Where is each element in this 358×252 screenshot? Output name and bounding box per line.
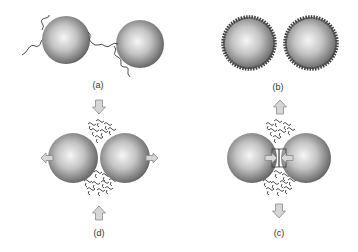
sphere <box>100 133 150 183</box>
arrow-up-icon <box>93 206 106 220</box>
panel-d: (d) <box>41 120 158 239</box>
panel-a: (a) <box>22 15 164 114</box>
arrow-down-icon <box>273 204 286 218</box>
polymer-chain <box>88 32 118 47</box>
panel-label-a: (a) <box>93 80 104 90</box>
panel-b: (b) <box>223 17 337 114</box>
sphere <box>116 20 164 68</box>
panel-c: (c) <box>227 120 331 239</box>
colloid-interaction-diagram: (a) (b) (d) <box>0 0 358 252</box>
arrow-down-icon <box>93 100 106 114</box>
sphere <box>48 133 98 183</box>
panel-label-d: (d) <box>94 228 105 238</box>
panel-label-b: (b) <box>273 82 284 92</box>
arrow-up-icon <box>274 100 287 114</box>
panel-label-c: (c) <box>274 228 285 238</box>
sphere <box>42 16 90 64</box>
